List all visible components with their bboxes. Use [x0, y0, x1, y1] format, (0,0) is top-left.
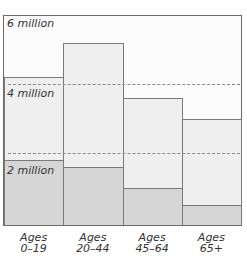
y-tick-label-2m: 2 million [7, 164, 54, 177]
bar-subset [64, 167, 122, 225]
y-tick-label-6m: 6 million [7, 17, 54, 30]
x-axis-label: Ages0–19 [4, 232, 64, 254]
bar-subset [183, 205, 241, 225]
population-chart: 6 million 4 million 2 million Ages0–19Ag… [0, 0, 247, 270]
gridline [8, 153, 240, 154]
bar-subset [124, 188, 182, 226]
y-tick-label-4m: 4 million [7, 87, 54, 100]
x-axis-label: Ages45–64 [122, 232, 182, 254]
x-axis-label: Ages20–44 [63, 232, 123, 254]
gridline [8, 84, 240, 85]
x-axis-label: Ages65+ [181, 232, 241, 254]
